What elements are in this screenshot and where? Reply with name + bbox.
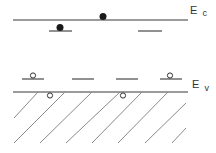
conduction-band-label: E c <box>190 4 207 18</box>
hatch-line <box>40 92 92 143</box>
hatch-line <box>66 92 120 143</box>
hole-icon <box>30 73 35 78</box>
acceptor-levels <box>22 73 182 79</box>
conduction-band-label-main: E <box>190 4 197 16</box>
valence-band: E v <box>13 78 209 93</box>
hatch-line <box>14 92 38 118</box>
donor-levels <box>49 24 162 31</box>
hatch-line <box>172 128 186 143</box>
band-diagram: E c E v <box>0 0 216 153</box>
hatch-line <box>118 92 168 143</box>
valence-band-label-main: E <box>192 78 199 90</box>
valence-band-label-sub: v <box>204 83 209 93</box>
electron-icon <box>100 13 107 20</box>
hatch-line <box>14 92 65 143</box>
hole-icon <box>120 93 125 98</box>
electron-icon <box>57 24 64 31</box>
hatch-line <box>92 92 142 143</box>
conduction-band-label-sub: c <box>202 8 207 18</box>
conduction-band: E c <box>13 4 207 20</box>
valence-band-hatching <box>14 92 186 143</box>
hole-icon <box>47 93 52 98</box>
hole-icon <box>167 73 172 78</box>
valence-band-label: E v <box>192 78 209 93</box>
